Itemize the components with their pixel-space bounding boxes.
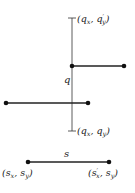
top-endpoint-label: (qx, q′y) <box>77 13 110 26</box>
lower-segment-left-point <box>4 101 9 106</box>
s-right-label: (s′x, sy) <box>88 167 118 180</box>
segment-diagram: (qx, q′y) q (qx, qy) s (sx, sy) (s′x, sy… <box>0 0 135 193</box>
upper-segment-right-point <box>122 64 127 69</box>
lower-segment-right-point <box>86 101 91 106</box>
s-label: s <box>64 148 69 159</box>
bottom-endpoint-label: (qx, qy) <box>77 125 110 138</box>
q-label: q <box>64 74 70 85</box>
s-left-point <box>26 160 31 165</box>
s-right-point <box>107 160 112 165</box>
s-left-label: (sx, sy) <box>2 167 33 180</box>
upper-segment-left-point <box>70 64 75 69</box>
